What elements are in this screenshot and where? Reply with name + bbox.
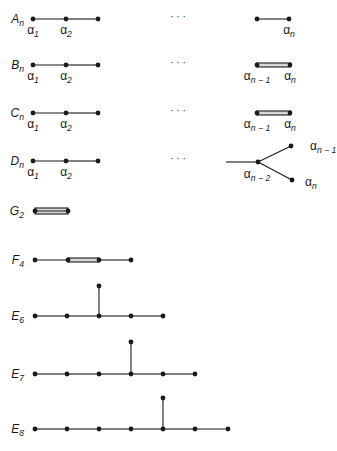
root-node [31, 159, 36, 164]
root-node [193, 427, 198, 432]
truncated-caption [0, 444, 337, 451]
root-node [97, 258, 102, 263]
root-node [65, 372, 70, 377]
root-label: α1 [27, 117, 39, 133]
root-node [65, 314, 70, 319]
root-node [193, 372, 198, 377]
root-node [33, 427, 38, 432]
root-node [129, 427, 134, 432]
root-label: α2 [60, 165, 72, 181]
double-bond [68, 258, 99, 262]
ellipsis: · · · [170, 11, 186, 22]
root-node [161, 314, 166, 319]
root-label: α1 [27, 69, 39, 85]
root-node [96, 63, 101, 68]
root-label: α2 [60, 69, 72, 85]
root-node [33, 314, 38, 319]
root-node [289, 144, 294, 149]
dynkin-diagram-b-n: Bn· · ·α1α2αn − 1αn [11, 57, 296, 85]
root-node [33, 258, 38, 263]
root-node [226, 427, 231, 432]
root-node [288, 63, 293, 68]
dynkin-diagram-e-7: E7 [11, 340, 197, 383]
root-node [64, 111, 69, 116]
single-bond [258, 146, 291, 162]
root-node [97, 372, 102, 377]
root-node [129, 258, 134, 263]
root-node [256, 160, 261, 165]
root-node [97, 427, 102, 432]
root-node [66, 258, 71, 263]
root-node [288, 111, 293, 116]
root-label: αn − 1 [244, 69, 271, 85]
root-node [66, 209, 71, 214]
double-bond [257, 63, 290, 67]
root-label: αn [284, 69, 296, 85]
root-node [290, 178, 295, 183]
dynkin-diagram-e-6: E6 [11, 284, 165, 325]
root-label: αn [305, 175, 317, 191]
root-label: αn [283, 23, 295, 39]
dynkin-diagram-c-n: Cn· · ·α1α2αn − 1αn [11, 105, 297, 133]
diagram-type-label: Cn [11, 106, 25, 122]
root-label: αn [284, 117, 296, 133]
root-node [161, 372, 166, 377]
root-node [97, 314, 102, 319]
root-node [65, 427, 70, 432]
ellipsis: · · · [170, 57, 186, 68]
double-bond [257, 111, 290, 115]
diagram-type-label: Dn [11, 154, 25, 170]
dynkin-diagram-e-8: E8 [11, 396, 230, 438]
root-node [96, 17, 101, 22]
root-node [161, 396, 166, 401]
root-node [96, 111, 101, 116]
root-node [64, 17, 69, 22]
root-node [31, 63, 36, 68]
root-node [255, 63, 260, 68]
root-label: αn − 2 [244, 167, 271, 183]
root-node [96, 159, 101, 164]
root-label: αn − 1 [244, 117, 271, 133]
root-node [33, 372, 38, 377]
diagram-type-label: F4 [12, 253, 24, 269]
root-node [64, 159, 69, 164]
root-node [287, 17, 292, 22]
root-node [31, 111, 36, 116]
root-node [161, 427, 166, 432]
root-node [97, 284, 102, 289]
diagram-type-label: E6 [11, 309, 24, 325]
ellipsis: · · · [170, 105, 186, 116]
ellipsis: · · · [170, 153, 186, 164]
dynkin-diagram-g-2: G2 [10, 204, 71, 220]
root-label: α2 [60, 23, 72, 39]
diagram-type-label: E7 [11, 367, 25, 383]
diagram-type-label: An [10, 12, 24, 28]
dynkin-diagram-f-4: F4 [12, 253, 134, 269]
diagram-type-label: E8 [11, 422, 24, 438]
diagram-type-label: G2 [10, 204, 24, 220]
root-label: α1 [27, 165, 39, 181]
dynkin-diagrams-figure: An· · ·α1α2αnBn· · ·α1α2αn − 1αnCn· · ·α… [0, 0, 337, 451]
dynkin-diagram-a-n: An· · ·α1α2αn [10, 11, 295, 39]
dynkin-diagram-d-n: Dn· · ·α1α2αn − 2αn − 1αn [11, 139, 337, 191]
root-node [129, 314, 134, 319]
root-node [31, 17, 36, 22]
root-node [255, 111, 260, 116]
root-label: α2 [60, 117, 72, 133]
root-node [255, 17, 260, 22]
root-node [64, 63, 69, 68]
diagram-type-label: Bn [11, 58, 24, 74]
root-node [129, 340, 134, 345]
root-node [33, 209, 38, 214]
root-label: α1 [27, 23, 39, 39]
root-node [129, 372, 134, 377]
root-label: αn − 1 [310, 139, 337, 155]
